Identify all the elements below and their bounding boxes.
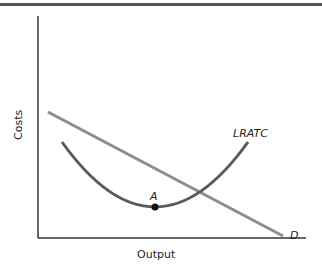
lratc-label: LRATC (233, 127, 268, 140)
y-axis-label: Costs (12, 110, 25, 140)
demand-label: D (290, 229, 298, 242)
point-a-marker (152, 204, 159, 211)
chart-canvas (0, 0, 322, 280)
x-axis-label: Output (137, 248, 175, 261)
point-a-label: A (150, 190, 158, 203)
